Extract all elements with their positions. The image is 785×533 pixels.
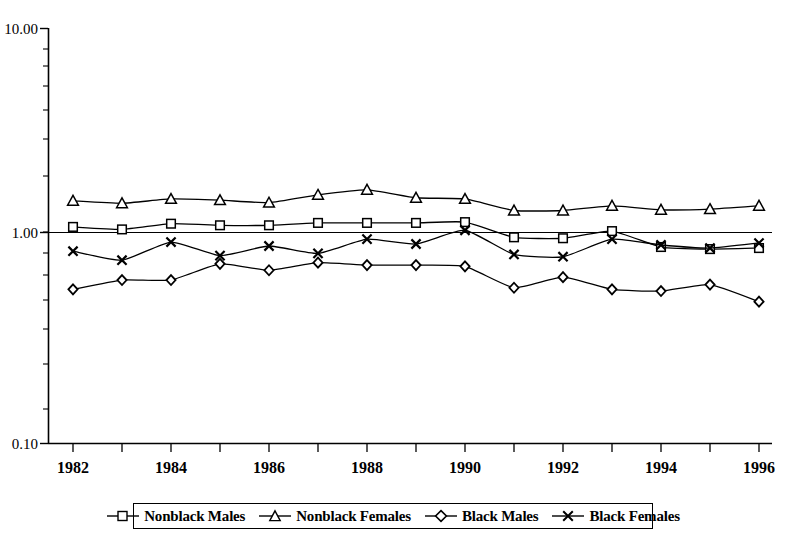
data-point-marker [69, 223, 78, 232]
data-point-marker [411, 260, 420, 270]
data-point-marker [117, 275, 126, 285]
data-point-marker [412, 219, 421, 228]
data-point-marker [754, 200, 765, 210]
y-minor-ticks [43, 49, 48, 409]
legend-label-black-males: Black Males [460, 508, 539, 525]
y-tick-label-top: 10.00 [4, 21, 38, 37]
data-point-marker [68, 195, 79, 205]
x-tick-label-1990: 1990 [449, 459, 481, 476]
x-tick-label-1982: 1982 [57, 459, 89, 476]
data-point-marker [509, 250, 518, 259]
y-tick-label-mid: 1.00 [12, 225, 38, 241]
data-point-marker [265, 221, 274, 230]
data-point-marker [313, 258, 322, 268]
data-point-marker [68, 247, 77, 256]
x-ticks [73, 443, 759, 452]
series-black-males [68, 258, 763, 307]
cross-marker-icon [551, 509, 585, 523]
data-point-marker [509, 283, 518, 293]
legend-label-black-females: Black Females [587, 508, 679, 525]
data-point-marker [559, 234, 568, 243]
legend-item-black-females[interactable]: Black Females [551, 508, 679, 525]
data-point-marker [166, 275, 175, 285]
data-point-marker [510, 233, 519, 242]
data-point-marker [461, 218, 470, 227]
x-tick-label-1986: 1986 [253, 459, 285, 476]
x-tick-label-1992: 1992 [547, 459, 579, 476]
x-tick-label-1994: 1994 [645, 459, 677, 476]
data-point-marker [656, 286, 665, 296]
triangle-marker-icon [258, 509, 292, 523]
legend-item-nonblack-females[interactable]: Nonblack Females [258, 508, 411, 525]
chart-container: 10.00 1.00 0.10 1982 1984 1986 1988 1990… [0, 0, 785, 533]
data-point-marker [754, 297, 763, 307]
data-point-marker [216, 221, 225, 230]
data-point-marker [363, 219, 372, 228]
data-point-marker [264, 265, 273, 275]
x-tick-label-1996: 1996 [743, 459, 775, 476]
x-tick-label-1988: 1988 [351, 459, 383, 476]
data-point-marker [314, 219, 323, 228]
data-point-marker [460, 261, 469, 271]
square-marker-icon [106, 509, 140, 523]
y-major-ticks [40, 29, 48, 444]
data-point-marker [558, 272, 567, 282]
x-tick-label-1984: 1984 [155, 459, 187, 476]
y-tick-label-bottom: 0.10 [12, 436, 38, 452]
line-chart-plot: 10.00 1.00 0.10 1982 1984 1986 1988 1990… [0, 0, 785, 533]
data-point-marker [167, 219, 176, 228]
diamond-marker-icon [424, 509, 458, 523]
data-point-marker [118, 225, 127, 234]
data-point-marker [607, 284, 616, 294]
data-point-marker [705, 280, 714, 290]
series-nonblack-females [68, 184, 765, 214]
series-layer [68, 184, 765, 306]
legend-item-black-males[interactable]: Black Males [424, 508, 539, 525]
legend-label-nonblack-males: Nonblack Males [142, 508, 245, 525]
chart-legend: Nonblack Males Nonblack Females Black Ma… [133, 503, 653, 529]
data-point-marker [362, 260, 371, 270]
legend-label-nonblack-females: Nonblack Females [294, 508, 411, 525]
data-point-marker [68, 284, 77, 294]
data-point-marker [608, 227, 617, 236]
legend-item-nonblack-males[interactable]: Nonblack Males [106, 508, 245, 525]
chart-axes [48, 28, 772, 444]
